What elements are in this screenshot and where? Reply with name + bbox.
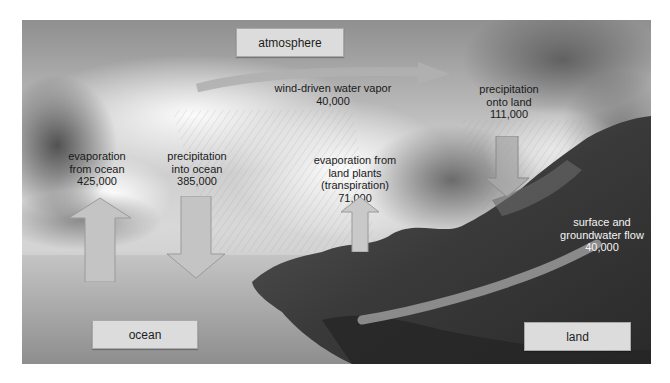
down-arrow-icon (484, 136, 530, 198)
atmosphere-label: atmosphere (236, 28, 344, 57)
transpiration-line1: evaporation from (302, 154, 408, 167)
precip-land-label: precipitation onto land 111,000 (464, 83, 554, 121)
runoff-value: 40,000 (552, 241, 651, 254)
precip-land-line2: onto land (464, 96, 554, 109)
land-label: land (524, 322, 631, 351)
precip-ocean-label: precipitation into ocean 385,000 (152, 150, 242, 188)
evap-ocean-value: 425,000 (52, 175, 142, 188)
wind-vapor-label: wind-driven water vapor 40,000 (258, 82, 408, 107)
evap-ocean-line1: evaporation (52, 150, 142, 163)
wind-vapor-value: 40,000 (258, 95, 408, 108)
runoff-label: surface and groundwater flow 40,000 (552, 216, 651, 254)
up-arrow-icon (340, 196, 380, 252)
wind-vapor-name: wind-driven water vapor (258, 82, 408, 95)
precip-ocean-value: 385,000 (152, 175, 242, 188)
precip-ocean-line1: precipitation (152, 150, 242, 163)
precip-ocean-line2: into ocean (152, 163, 242, 176)
transpiration-line3: (transpiration) (302, 179, 408, 192)
down-arrow-icon (165, 196, 227, 280)
up-arrow-icon (67, 196, 133, 282)
transpiration-line2: land plants (302, 167, 408, 180)
evap-ocean-label: evaporation from ocean 425,000 (52, 150, 142, 188)
ocean-label: ocean (92, 320, 198, 349)
runoff-line2: groundwater flow (552, 229, 651, 242)
water-cycle-diagram: atmosphere ocean land wind-driven water … (22, 20, 651, 364)
evap-ocean-line2: from ocean (52, 163, 142, 176)
precip-land-line1: precipitation (464, 83, 554, 96)
runoff-line1: surface and (552, 216, 651, 229)
precip-land-value: 111,000 (464, 108, 554, 121)
